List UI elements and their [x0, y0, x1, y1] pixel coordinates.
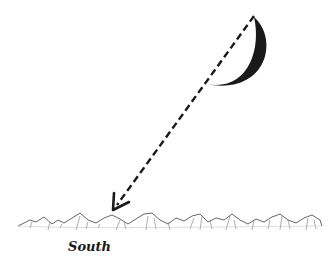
crescent-moon-icon: [206, 17, 266, 86]
diagram-canvas: [0, 0, 332, 274]
mountain-range-icon: [18, 213, 322, 230]
direction-label: South: [68, 239, 111, 254]
dashed-arrow: [113, 16, 254, 210]
